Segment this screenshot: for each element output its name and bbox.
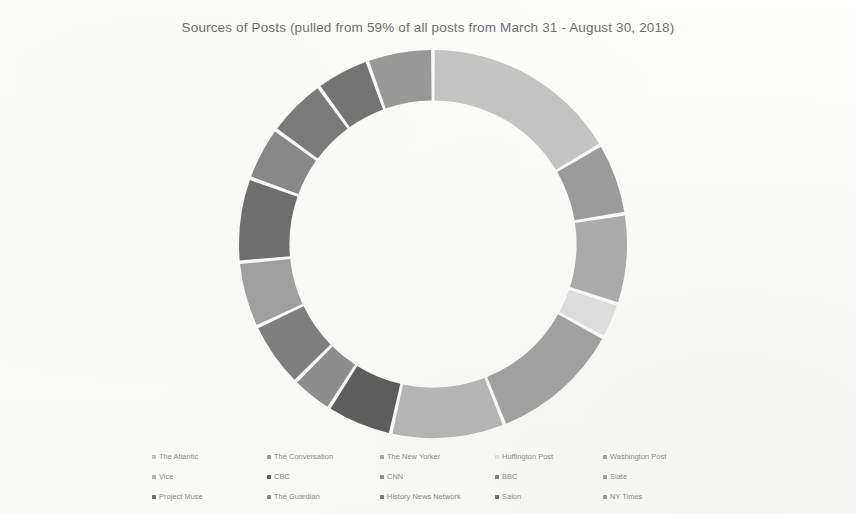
legend-item-label: The Guardian (274, 492, 320, 502)
legend-item-slate[interactable]: Slate (603, 467, 712, 487)
donut-chart-svg (237, 48, 629, 440)
legend-marker-icon (380, 475, 384, 479)
donut-segment[interactable] (393, 378, 503, 438)
legend-row: Project Muse The Guardian History News N… (152, 487, 712, 507)
donut-segment[interactable] (487, 314, 602, 423)
legend-item-the-conversation[interactable]: The Conversation (267, 447, 380, 467)
legend-marker-icon (603, 475, 607, 479)
chart-title: Sources of Posts (pulled from 59% of all… (0, 20, 856, 35)
donut-segment[interactable] (239, 180, 297, 260)
legend-item-project-muse[interactable]: Project Muse (152, 487, 267, 507)
legend-item-cbc[interactable]: CBC (267, 467, 380, 487)
donut-chart (237, 48, 629, 440)
legend-item-cnn[interactable]: CNN (380, 467, 495, 487)
legend-item-label: The New Yorker (387, 452, 440, 462)
legend-item-label: CBC (274, 472, 290, 482)
legend-marker-icon (152, 475, 156, 479)
legend-marker-icon (267, 475, 271, 479)
legend-item-the-new-yorker[interactable]: The New Yorker (380, 447, 495, 467)
legend-item-salon[interactable]: Salon (495, 487, 603, 507)
legend-item-the-atlantic[interactable]: The Atlantic (152, 447, 267, 467)
legend-item-label: Salon (502, 492, 521, 502)
legend-item-label: Project Muse (159, 492, 203, 502)
legend-item-ny-times[interactable]: NY Times (603, 487, 712, 507)
legend-row: Vice CBC CNN BBC Slate (152, 467, 712, 487)
legend-item-huffington-post[interactable]: Huffington Post (495, 447, 603, 467)
legend-item-label: The Atlantic (159, 452, 198, 462)
legend-item-label: Washington Post (610, 452, 666, 462)
chart-legend: The Atlantic The Conversation The New Yo… (152, 447, 712, 509)
donut-segment-group (239, 50, 627, 438)
legend-item-label: Huffington Post (502, 452, 553, 462)
legend-marker-icon (380, 455, 384, 459)
legend-row: The Atlantic The Conversation The New Yo… (152, 447, 712, 467)
legend-marker-icon (495, 455, 499, 459)
legend-marker-icon (152, 455, 156, 459)
legend-marker-icon (495, 475, 499, 479)
legend-marker-icon (603, 455, 607, 459)
legend-item-label: BBC (502, 472, 517, 482)
legend-item-history-news-network[interactable]: History News Network (380, 487, 495, 507)
legend-marker-icon (380, 495, 384, 499)
legend-item-the-guardian[interactable]: The Guardian (267, 487, 380, 507)
legend-marker-icon (603, 495, 607, 499)
legend-marker-icon (495, 495, 499, 499)
legend-marker-icon (152, 495, 156, 499)
legend-item-label: The Conversation (274, 452, 333, 462)
legend-marker-icon (267, 495, 271, 499)
legend-item-vice[interactable]: Vice (152, 467, 267, 487)
legend-item-bbc[interactable]: BBC (495, 467, 603, 487)
donut-segment[interactable] (434, 50, 599, 170)
chart-page: Sources of Posts (pulled from 59% of all… (0, 0, 856, 514)
legend-item-label: NY Times (610, 492, 642, 502)
legend-item-label: CNN (387, 472, 403, 482)
legend-marker-icon (267, 455, 271, 459)
legend-item-label: Slate (610, 472, 627, 482)
legend-item-label: Vice (159, 472, 173, 482)
legend-item-label: History News Network (387, 492, 461, 502)
donut-segment[interactable] (570, 215, 627, 302)
legend-item-washington-post[interactable]: Washington Post (603, 447, 712, 467)
